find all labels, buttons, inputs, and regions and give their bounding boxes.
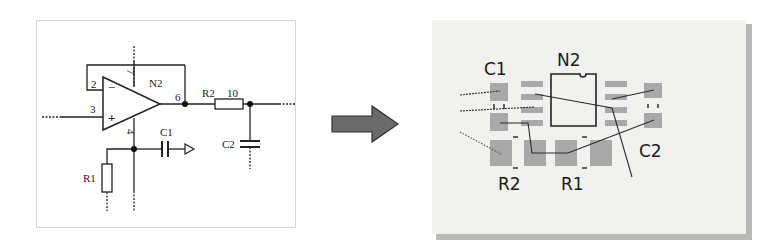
c1-pad	[490, 113, 508, 131]
pcb-shadow	[746, 24, 752, 238]
r1-label: R1	[83, 172, 96, 184]
r1-resistor	[102, 164, 112, 192]
c1-label: C1	[160, 126, 173, 138]
ground-triangle-icon	[185, 144, 194, 154]
pcb-shadow	[436, 234, 752, 240]
pcb-r1-label: R1	[561, 174, 584, 194]
pin-6-label: 6	[175, 91, 181, 103]
pcb-c2-label: C2	[639, 141, 662, 161]
c1-pad	[490, 83, 508, 101]
junction-dot	[247, 101, 253, 107]
feedback-wire	[87, 65, 134, 90]
pin-7-label: 7	[125, 69, 137, 75]
opamp-ref-label: N2	[149, 77, 162, 89]
junction-dot	[131, 146, 137, 152]
r2-resistor	[215, 99, 243, 109]
non-inverting-symbol: +	[108, 110, 115, 125]
n2-ic-outline	[551, 74, 596, 126]
pcb-svg: C1 N2 C2 R2 R1	[432, 20, 746, 234]
n2-pin-pad	[521, 81, 543, 87]
schematic-diagram: 2 3 6 7 4 N2 R2 10 C1 C2 R1 − +	[36, 20, 296, 228]
r2-label: R2	[202, 87, 215, 99]
r1-pad	[590, 140, 612, 166]
pcb-r2-label: R2	[498, 174, 521, 194]
pin-2-label: 2	[91, 78, 97, 90]
pin-4-label: 4	[125, 129, 137, 135]
r2-pad	[490, 140, 512, 166]
pin-3-label: 3	[90, 103, 96, 115]
r2-value-label: 10	[227, 87, 239, 99]
opamp-symbol	[103, 77, 160, 130]
c2-label: C2	[222, 138, 235, 150]
pcb-n2-label: N2	[557, 50, 581, 70]
schematic-svg: 2 3 6 7 4 N2 R2 10 C1 C2 R1 − +	[37, 21, 295, 227]
junction-dot	[182, 101, 188, 107]
n2-pin-pad	[605, 107, 627, 113]
pcb-c1-label: C1	[484, 59, 507, 79]
n2-pin-pad	[605, 81, 627, 87]
pcb-layout: C1 N2 C2 R2 R1	[432, 20, 746, 234]
right-arrow-icon	[330, 104, 402, 144]
